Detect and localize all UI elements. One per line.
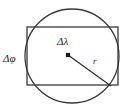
- label-delta-phi: Δφ: [2, 52, 16, 64]
- diagram-canvas: Δλ Δφ r: [0, 0, 128, 112]
- diagram-background: [0, 0, 128, 112]
- center-marker: [66, 53, 70, 57]
- label-radius: r: [93, 56, 97, 66]
- figure-container: Δλ Δφ r: [0, 0, 128, 112]
- label-delta-lambda: Δλ: [56, 35, 68, 47]
